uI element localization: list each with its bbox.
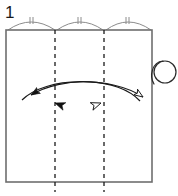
fold-diagram-figure: 1 bbox=[0, 0, 178, 196]
measure-arc-group bbox=[8, 17, 151, 30]
roll-curl-symbol bbox=[152, 61, 176, 84]
step-number-label: 1 bbox=[5, 3, 14, 22]
measure-arc-3 bbox=[106, 17, 151, 30]
measure-arc-1 bbox=[8, 17, 55, 30]
fold-diagram-canvas: 1 bbox=[0, 0, 178, 196]
measure-arc-2 bbox=[57, 17, 103, 30]
paper-sheet-outline bbox=[6, 30, 152, 182]
